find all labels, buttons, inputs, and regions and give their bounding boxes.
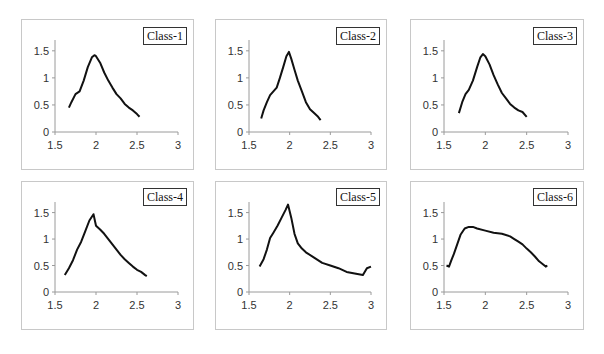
y-tick-label: 1 xyxy=(237,233,243,245)
legend-box: Class-4 xyxy=(143,188,187,206)
x-tick-label: 3 xyxy=(565,299,571,311)
x-tick-label: 2 xyxy=(482,299,488,311)
x-tick-label: 2 xyxy=(93,299,99,311)
x-tick-label: 2.5 xyxy=(323,299,338,311)
series-line xyxy=(447,227,548,267)
x-tick-label: 3 xyxy=(175,299,181,311)
x-tick-label: 2.5 xyxy=(519,299,534,311)
y-tick-label: 0 xyxy=(237,286,243,298)
x-tick-label: 2.5 xyxy=(129,139,144,151)
chart-panel-6: 00.511.51.522.53 Class-6 xyxy=(410,181,584,330)
y-tick-label: 0.5 xyxy=(34,260,49,272)
chart-panel-4: 00.511.51.522.53 Class-4 xyxy=(21,181,194,330)
y-tick-label: 1 xyxy=(432,233,438,245)
chart-panel-5: 00.511.51.522.53 Class-5 xyxy=(215,181,387,330)
x-tick-label: 1.5 xyxy=(241,139,256,151)
legend-box: Class-2 xyxy=(336,27,380,45)
x-tick-label: 1.5 xyxy=(47,139,62,151)
y-tick-label: 1.5 xyxy=(228,45,243,57)
y-tick-label: 1 xyxy=(43,233,49,245)
legend-box: Class-6 xyxy=(533,188,577,206)
x-tick-label: 2 xyxy=(287,299,293,311)
y-tick-label: 1.5 xyxy=(423,45,438,57)
x-tick-label: 2.5 xyxy=(323,139,338,151)
y-tick-label: 1.5 xyxy=(423,207,438,219)
x-tick-label: 2.5 xyxy=(129,299,144,311)
series-line xyxy=(261,52,320,120)
y-tick-label: 1.5 xyxy=(228,207,243,219)
legend-box: Class-1 xyxy=(143,27,187,45)
chart-panel-1: 00.511.51.522.53 Class-1 xyxy=(21,19,194,170)
legend-box: Class-5 xyxy=(336,188,380,206)
series-line xyxy=(65,214,147,276)
y-tick-label: 0.5 xyxy=(228,99,243,111)
x-tick-label: 3 xyxy=(175,139,181,151)
x-tick-label: 1.5 xyxy=(436,299,451,311)
x-tick-label: 2 xyxy=(93,139,99,151)
series-line xyxy=(260,205,371,276)
series-line xyxy=(69,55,140,117)
x-tick-label: 2 xyxy=(287,139,293,151)
chart-panel-3: 00.511.51.522.53 Class-3 xyxy=(410,19,584,170)
series-line xyxy=(459,54,527,117)
x-tick-label: 3 xyxy=(565,139,571,151)
x-tick-label: 2.5 xyxy=(519,139,534,151)
y-tick-label: 1 xyxy=(432,72,438,84)
y-tick-label: 0 xyxy=(432,286,438,298)
legend-box: Class-3 xyxy=(533,27,577,45)
y-tick-label: 0.5 xyxy=(228,260,243,272)
y-tick-label: 1 xyxy=(237,72,243,84)
y-tick-label: 0.5 xyxy=(423,260,438,272)
x-tick-label: 3 xyxy=(368,139,374,151)
y-tick-label: 0 xyxy=(432,126,438,138)
chart-panel-2: 00.511.51.522.53 Class-2 xyxy=(215,19,387,170)
x-tick-label: 1.5 xyxy=(241,299,256,311)
x-tick-label: 1.5 xyxy=(436,139,451,151)
y-tick-label: 1.5 xyxy=(34,207,49,219)
x-tick-label: 3 xyxy=(368,299,374,311)
y-tick-label: 1 xyxy=(43,72,49,84)
y-tick-label: 0 xyxy=(43,286,49,298)
y-tick-label: 1.5 xyxy=(34,45,49,57)
x-tick-label: 1.5 xyxy=(47,299,62,311)
y-tick-label: 0.5 xyxy=(34,99,49,111)
x-tick-label: 2 xyxy=(482,139,488,151)
y-tick-label: 0.5 xyxy=(423,99,438,111)
y-tick-label: 0 xyxy=(43,126,49,138)
y-tick-label: 0 xyxy=(237,126,243,138)
